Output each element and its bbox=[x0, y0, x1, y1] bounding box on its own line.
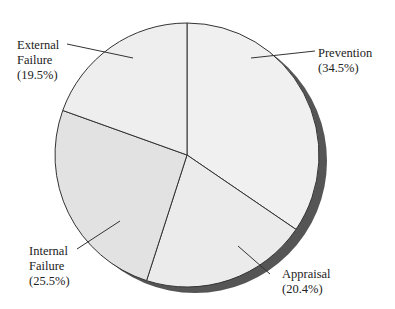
pie-chart: Prevention (34.5%) Appraisal (20.4%) Int… bbox=[0, 0, 395, 309]
label-appraisal-name: Appraisal bbox=[282, 267, 331, 281]
label-appraisal-value: (20.4%) bbox=[282, 282, 323, 296]
label-external-failure: External Failure (19.5%) bbox=[17, 38, 60, 82]
label-external-line2: Failure bbox=[17, 53, 53, 67]
label-appraisal: Appraisal (20.4%) bbox=[282, 267, 331, 296]
label-prevention-name: Prevention bbox=[318, 46, 373, 60]
label-external-line1: External bbox=[17, 38, 60, 52]
label-internal-line1: Internal bbox=[29, 244, 68, 258]
label-prevention: Prevention (34.5%) bbox=[318, 46, 373, 75]
pie-slices bbox=[55, 23, 319, 287]
label-internal-value: (25.5%) bbox=[29, 274, 70, 288]
label-internal-failure: Internal Failure (25.5%) bbox=[29, 244, 70, 288]
label-prevention-value: (34.5%) bbox=[318, 61, 359, 75]
label-external-value: (19.5%) bbox=[17, 68, 58, 82]
label-internal-line2: Failure bbox=[29, 259, 65, 273]
